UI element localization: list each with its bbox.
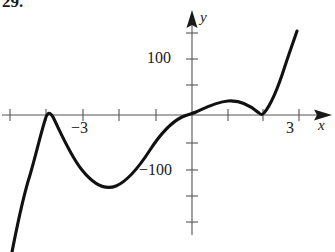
- x-axis-label: x: [318, 118, 325, 133]
- graph-figure: [0, 0, 335, 252]
- x-tick-label-negative-3: −3: [71, 120, 88, 136]
- x-tick-label-3: 3: [286, 120, 294, 136]
- y-tick-label-100: 100: [147, 50, 171, 66]
- y-tick-label-negative-100: −100: [139, 162, 172, 178]
- y-axis-label: y: [200, 10, 207, 25]
- figure-page: 29.: [0, 0, 335, 252]
